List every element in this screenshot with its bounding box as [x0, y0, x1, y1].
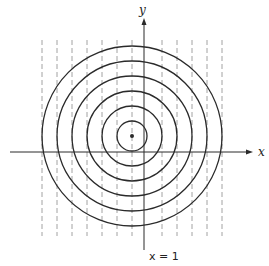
y-axis-arrow-icon [142, 18, 147, 25]
y-axis-label: y [138, 3, 146, 17]
center-point [130, 134, 134, 138]
x-axis-label: x [258, 145, 265, 159]
line-label-x-equals-1: x = 1 [149, 250, 179, 263]
x-axis-arrow-icon [246, 150, 253, 155]
level-curves-diagram: x y x = 1 [0, 0, 269, 266]
